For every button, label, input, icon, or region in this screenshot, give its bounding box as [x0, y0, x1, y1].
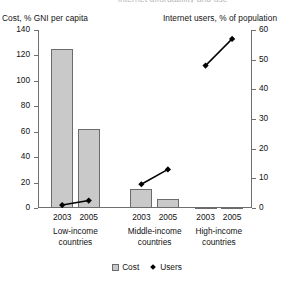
right-tick-label: 20	[259, 143, 268, 153]
left-axis-title: Cost, % GNI per capita	[2, 13, 88, 23]
left-tick-label: 40	[2, 151, 30, 161]
right-tick-label: 40	[259, 83, 268, 93]
legend-item-users: Users	[150, 262, 182, 272]
left-tick-label: 20	[2, 177, 30, 187]
plot-area: 020406080100120140 0102030405060	[38, 30, 252, 208]
legend-label-users: Users	[160, 262, 182, 272]
users-diamond-marker	[86, 197, 92, 203]
users-diamond-marker	[59, 202, 65, 208]
users-diamond-marker	[165, 166, 171, 172]
right-tick	[252, 60, 256, 61]
right-tick	[252, 208, 256, 209]
users-diamond-marker	[138, 181, 144, 187]
x-axis-year-label: 2005	[151, 212, 185, 222]
left-tick-label: 60	[2, 126, 30, 136]
users-line-segment	[141, 169, 168, 184]
right-tick-label: 50	[259, 54, 268, 64]
left-tick-label: 0	[2, 202, 30, 212]
legend-item-cost: Cost	[112, 262, 139, 272]
right-tick	[252, 178, 256, 179]
left-tick-label: 140	[2, 24, 30, 34]
users-line-segment	[206, 39, 233, 66]
x-axis-group-label: High-income	[174, 226, 264, 237]
x-axis-group-label-line2: countries	[30, 237, 120, 248]
right-tick-label: 10	[259, 172, 268, 182]
diamond-marker-icon	[150, 264, 157, 271]
right-tick	[252, 149, 256, 150]
users-line-segment	[62, 201, 89, 205]
users-line-layer	[38, 30, 252, 208]
left-tick-label: 80	[2, 100, 30, 110]
right-tick	[252, 30, 256, 31]
right-tick	[252, 119, 256, 120]
square-swatch-icon	[112, 264, 119, 271]
x-axis-group-label-line2: countries	[174, 237, 264, 248]
left-tick-label: 120	[2, 49, 30, 59]
x-axis-year-label: 2005	[72, 212, 106, 222]
left-tick-label: 100	[2, 75, 30, 85]
right-tick-label: 0	[259, 202, 264, 212]
x-axis-year-label: 2005	[215, 212, 249, 222]
right-tick	[252, 89, 256, 90]
right-tick-label: 60	[259, 24, 268, 34]
x-axis-group-label: Low-income	[30, 226, 120, 237]
right-tick-label: 30	[259, 113, 268, 123]
right-axis-title: Internet users, % of population	[163, 13, 277, 23]
chart-figure: internet affordability and use Cost, % G…	[0, 0, 294, 285]
chart-legend: Cost Users	[0, 262, 294, 272]
left-tick	[34, 208, 38, 209]
clipped-header-text: internet affordability and use	[118, 0, 294, 3]
legend-label-cost: Cost	[122, 262, 139, 272]
